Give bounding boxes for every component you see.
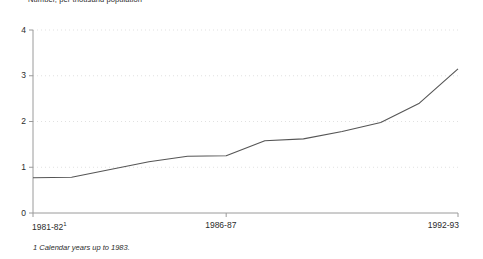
x-axis-label: 1986-87 xyxy=(205,221,236,230)
footnote-text: Calendar years up to 1983. xyxy=(39,243,129,252)
x-axis-label: 1992-93 xyxy=(428,221,459,230)
chart-page: Number, per thousand population 01234 19… xyxy=(0,0,483,259)
footnote-marker: 1 xyxy=(33,243,37,252)
y-axis-label: 1 xyxy=(8,163,26,172)
y-axis-label: 4 xyxy=(8,26,26,35)
footnote: 1 Calendar years up to 1983. xyxy=(33,243,130,252)
x-label-footnote-marker: 1 xyxy=(63,221,66,227)
x-axis-label: 1981-821 xyxy=(32,221,67,231)
data-series-line xyxy=(33,69,458,178)
gridlines xyxy=(33,30,458,167)
x-axis-ticks xyxy=(33,213,458,217)
line-chart-svg xyxy=(0,0,483,230)
y-axis-label: 3 xyxy=(8,71,26,80)
y-axis-label: 0 xyxy=(8,209,26,218)
y-axis-ticks xyxy=(29,30,33,213)
y-axis-label: 2 xyxy=(8,117,26,126)
plot-area: 01234 1981-8211986-871992-93 xyxy=(0,0,483,230)
